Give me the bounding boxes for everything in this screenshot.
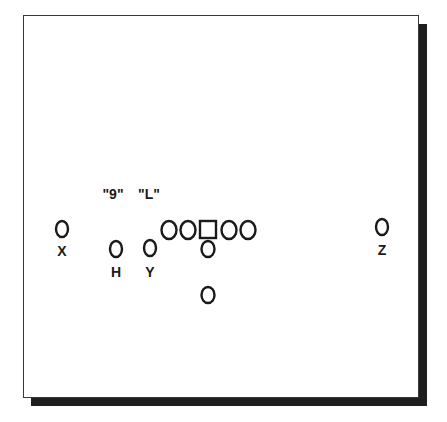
formation-diagram: "9" "L" X H Y Z: [0, 0, 447, 422]
h-back-label: H: [111, 264, 121, 280]
center-square-icon: [200, 221, 216, 238]
call-label-l: "L": [138, 186, 160, 202]
y-tight-end-circle-icon: [144, 240, 156, 256]
running-back-circle-icon: [202, 287, 215, 303]
quarterback-circle-icon: [202, 241, 215, 257]
z-receiver-circle-icon: [376, 219, 388, 235]
x-receiver-circle-icon: [56, 221, 68, 237]
left-guard-circle-icon: [181, 221, 196, 239]
z-receiver-label: Z: [378, 242, 387, 258]
h-back-circle-icon: [110, 241, 122, 257]
x-receiver-label: X: [57, 243, 67, 259]
call-label-9: "9": [102, 186, 123, 202]
y-tight-end-label: Y: [145, 264, 155, 280]
right-tackle-circle-icon: [241, 221, 256, 239]
left-tackle-circle-icon: [162, 221, 177, 239]
right-guard-circle-icon: [222, 221, 237, 239]
